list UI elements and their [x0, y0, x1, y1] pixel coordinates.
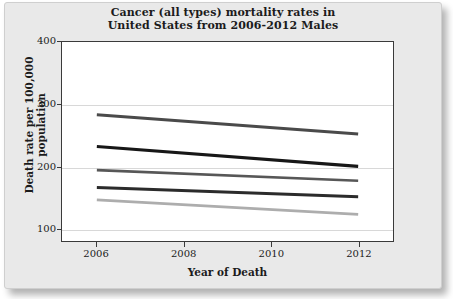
plot-area [61, 41, 394, 242]
x-tick-mark [359, 242, 360, 247]
y-tick-label: 300 [14, 98, 56, 109]
x-tick-label: 2010 [246, 248, 296, 259]
y-tick-label: 100 [14, 223, 56, 234]
x-axis-label: Year of Death [61, 266, 394, 278]
chart-title-line-1: Cancer (all types) mortality rates in [5, 7, 441, 20]
data-line-series-1 [97, 115, 358, 134]
data-line-series-4 [97, 188, 358, 197]
y-tick-label: 400 [14, 35, 56, 46]
chart-title: Cancer (all types) mortality rates in Un… [5, 7, 441, 32]
x-tick-mark [271, 242, 272, 247]
x-tick-label: 2012 [334, 248, 384, 259]
x-tick-label: 2006 [71, 248, 121, 259]
x-tick-mark [96, 242, 97, 247]
line-series-group [62, 42, 393, 241]
data-line-series-2 [97, 146, 358, 166]
y-axis-label: Death rate per 100,000 population [23, 25, 47, 225]
x-tick-label: 2008 [159, 248, 209, 259]
x-tick-mark [184, 242, 185, 247]
y-tick-label: 200 [14, 161, 56, 172]
data-line-series-5 [97, 200, 358, 214]
data-line-series-3 [97, 170, 358, 181]
chart-card: Cancer (all types) mortality rates in Un… [4, 2, 442, 289]
chart-title-line-2: United States from 2006-2012 Males [5, 20, 441, 33]
